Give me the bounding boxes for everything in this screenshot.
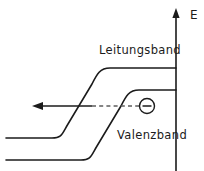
energy-axis-label: E bbox=[190, 9, 198, 21]
energy-axis-arrowhead-icon bbox=[172, 8, 179, 18]
band-diagram-figure: Leitungsband Valenzband E bbox=[0, 0, 204, 171]
valence-band-label: Valenzband bbox=[117, 130, 187, 142]
band-diagram-canvas bbox=[0, 0, 204, 171]
conduction-band-label: Leitungsband bbox=[99, 45, 181, 57]
transition-arrowhead-icon bbox=[32, 102, 43, 110]
